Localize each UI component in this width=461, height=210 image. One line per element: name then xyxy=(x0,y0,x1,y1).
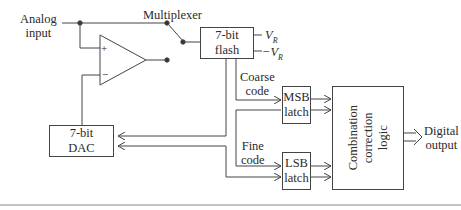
vr-neg: −V xyxy=(262,45,278,59)
fine-2: code xyxy=(241,153,265,167)
analog-input-line2: input xyxy=(20,26,57,40)
coarse-1: Coarse xyxy=(240,70,275,84)
lsb-label-1: LSB xyxy=(284,156,308,171)
digital-output-label: Digital output xyxy=(424,124,459,152)
analog-input-line1: Analog xyxy=(20,12,57,26)
msb-latch-block: MSB latch xyxy=(282,86,311,124)
opamp-minus: − xyxy=(102,67,108,81)
vr-sub-2: R xyxy=(278,53,283,62)
dac-block: 7-bit DAC xyxy=(49,125,114,157)
logic-label-3: logic xyxy=(376,105,391,170)
vr-negative-label: −VR xyxy=(262,45,283,65)
msb-label-1: MSB xyxy=(283,90,309,105)
msb-label-2: latch xyxy=(283,105,309,120)
vr-sub: R xyxy=(273,36,278,45)
flash-label-1: 7-bit xyxy=(215,28,239,43)
combination-correction-logic-block: Combination correction logic xyxy=(332,86,404,190)
dac-label-2: DAC xyxy=(68,141,94,156)
opamp-plus: + xyxy=(101,41,107,55)
coarse-code-label: Coarse code xyxy=(240,70,275,98)
fine-1: Fine xyxy=(241,139,265,153)
digital-1: Digital xyxy=(424,124,459,138)
coarse-2: code xyxy=(240,84,275,98)
multiplexer-label: Multiplexer xyxy=(143,8,202,22)
lsb-latch-block: LSB latch xyxy=(282,152,311,190)
fine-code-label: Fine code xyxy=(241,139,265,167)
flash-label-2: flash xyxy=(215,43,239,58)
logic-label-2: correction xyxy=(361,105,376,170)
dac-label-1: 7-bit xyxy=(68,126,94,141)
analog-input-label: Analog input xyxy=(20,12,57,40)
vr-pos: V xyxy=(265,28,273,42)
lsb-label-2: latch xyxy=(284,171,308,186)
logic-label-1: Combination xyxy=(346,105,361,170)
flash-adc-block: 7-bit flash xyxy=(200,27,254,59)
digital-2: output xyxy=(424,138,459,152)
